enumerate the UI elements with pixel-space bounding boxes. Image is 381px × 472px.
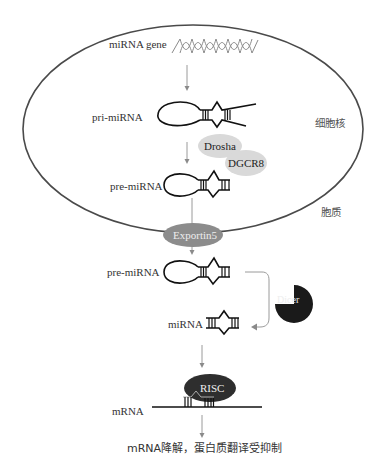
pri-mirna-label: pri-miRNA xyxy=(92,111,143,123)
pre-mirna-cytoplasm-hairpin-icon xyxy=(164,258,230,284)
exportin5-label: Exportin5 xyxy=(173,229,217,241)
dna-helix-icon xyxy=(172,39,258,53)
nucleus-membrane xyxy=(23,25,363,233)
pre-mirna-nucleus-label: pre-miRNA xyxy=(110,180,163,192)
dgcr8-label: DGCR8 xyxy=(228,157,265,169)
drosha-label: Drosha xyxy=(204,140,236,152)
arrow-risc-loading xyxy=(200,345,205,368)
arrow-drosha-cleavage xyxy=(185,142,190,164)
mirna-label: miRNA xyxy=(168,318,203,330)
mirna-duplex-icon xyxy=(206,311,239,334)
outcome-label: mRNA降解，蛋白质翻译受抑制 xyxy=(127,441,282,455)
arrow-dicer-processing xyxy=(245,272,269,331)
cytoplasm-label: 胞质 xyxy=(321,206,341,218)
mrna-label: mRNA xyxy=(112,405,144,417)
mirna-pathway-diagram: miRNA gene pri-miRNA Drosha DGCR8 pre-mi… xyxy=(0,0,381,472)
arrow-outcome xyxy=(200,415,205,438)
risc-label: RISC xyxy=(200,382,224,394)
pri-mirna-hairpin-icon xyxy=(158,102,256,127)
pre-mirna-cytoplasm-label: pre-miRNA xyxy=(107,266,160,278)
dicer-label: Dicer xyxy=(277,294,300,305)
pre-mirna-nucleus-hairpin-icon xyxy=(164,171,230,197)
mirna-gene-label: miRNA gene xyxy=(109,38,167,50)
nucleus-label: 细胞核 xyxy=(315,117,346,129)
arrow-transcription xyxy=(185,65,190,91)
